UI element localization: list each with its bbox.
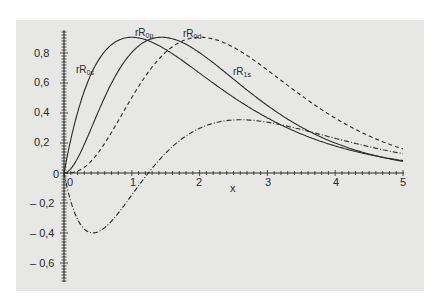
x-tick-label: 1 — [130, 176, 136, 188]
y-tick-label: – 0,2 — [30, 197, 54, 209]
x-tick-label: 0 — [67, 176, 73, 188]
y-tick-label: – 0,6 — [30, 257, 54, 269]
x-tick-label: 4 — [333, 176, 339, 188]
curve-rR0s — [64, 37, 403, 173]
y-tick-label: 0,6 — [34, 76, 49, 88]
series-label-rR1s: rR1s — [233, 66, 251, 78]
y-tick-label: 0,2 — [34, 136, 49, 148]
y-tick-label: – 0,4 — [30, 227, 54, 239]
y-tick-label: 0,4 — [34, 106, 49, 118]
x-axis-label: x — [230, 182, 236, 194]
curve-rR1s — [64, 120, 403, 233]
curve-rR0d — [64, 37, 403, 173]
series-label-rR0s: rR0s — [76, 64, 94, 76]
y-tick-label-origin: 0 — [53, 168, 59, 180]
x-tick-label: 5 — [400, 176, 406, 188]
curve-rR0p — [64, 37, 403, 173]
x-tick-label: 2 — [196, 176, 202, 188]
axis-ticks — [60, 32, 403, 281]
chart-svg: 0,8 0,6 0,4 0,2 0 – 0,2 – 0,4 – 0,6 0 1 … — [0, 0, 435, 303]
x-tick-label: 3 — [265, 176, 271, 188]
y-tick-label: 0,8 — [34, 47, 49, 59]
series-label-rR0d: rR0d — [183, 28, 201, 40]
